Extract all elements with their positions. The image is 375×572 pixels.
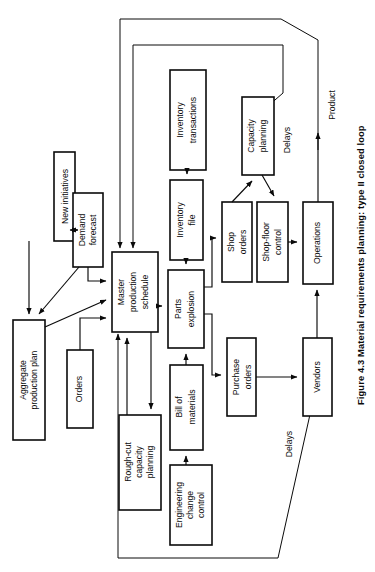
shop-orders-label-line2: orders <box>238 230 248 254</box>
inventory-transactions-label-line1: Inventory <box>175 102 185 138</box>
engineering-change-control-label-line2: change <box>185 491 195 519</box>
operations-label: Operations <box>312 222 322 264</box>
rough-cut-capacity-label-line2: capacity <box>134 446 144 478</box>
mrp-flowchart-canvas: New initiatives Demand forecast Aggregat… <box>0 0 375 572</box>
node-orders[interactable]: Orders <box>67 350 93 428</box>
node-rough-cut-capacity-planning[interactable]: Rough-cut capacity planning <box>119 415 161 510</box>
shop-orders-label-line1: Shop <box>226 232 236 252</box>
edge-demand-forecast-to-master <box>88 267 106 281</box>
capacity-planning-label-line2: planning <box>258 120 268 153</box>
rough-cut-capacity-label-line1: Rough-cut <box>123 442 133 482</box>
shop-floor-control-label-line1: Shop-floor <box>261 222 271 262</box>
purchase-orders-label-line1: Purchase <box>231 359 241 396</box>
bill-of-materials-label-line1: Bill of <box>174 396 184 418</box>
edge-parts-to-purchase-orders <box>204 314 221 375</box>
parts-explosion-label-line2: explosion <box>186 291 196 328</box>
bill-of-materials-label-line2: materials <box>187 390 197 425</box>
new-initiatives-label: New initiatives <box>60 169 70 224</box>
edge-demand-forecast-to-aggregate <box>39 267 79 314</box>
node-vendors[interactable]: Vendors <box>303 338 332 416</box>
master-production-schedule-label-line1: Master <box>116 279 126 305</box>
delays-lower-label: Delays <box>284 431 294 457</box>
figure-root: New initiatives Demand forecast Aggregat… <box>0 0 375 572</box>
node-operations[interactable]: Operations <box>303 202 333 284</box>
demand-forecast-label-line1: Demand <box>77 214 87 247</box>
engineering-change-control-label-line3: control <box>196 492 206 518</box>
edge-shop-orders-to-capacity <box>232 181 252 202</box>
aggregate-production-plan-label-line2: production plan <box>29 350 39 409</box>
node-new-initiatives[interactable]: New initiatives <box>54 152 75 241</box>
demand-forecast-label-line2: forecast <box>88 214 98 245</box>
aggregate-production-plan-label-line1: Aggregate <box>18 360 28 400</box>
node-capacity-planning[interactable]: Capacity planning <box>242 97 274 175</box>
product-label: Product <box>327 90 337 120</box>
shop-floor-control-label-line2: control <box>273 229 283 255</box>
master-production-schedule-label-line2: production <box>128 272 138 312</box>
inventory-file-label-line1: Inventory <box>175 202 185 238</box>
orders-label: Orders <box>74 376 84 402</box>
rough-cut-capacity-label-line3: planning <box>145 446 155 479</box>
node-master-production-schedule[interactable]: Master production schedule <box>112 252 158 332</box>
purchase-orders-label-line2: orders <box>243 365 253 389</box>
capacity-planning-label-line1: Capacity <box>246 119 256 153</box>
node-engineering-change-control[interactable]: Engineering change control <box>170 465 212 545</box>
edge-orders-to-master <box>80 318 106 350</box>
node-inventory-transactions[interactable]: Inventory transactions <box>170 70 206 170</box>
node-parts-explosion[interactable]: Parts explosion <box>168 270 204 348</box>
engineering-change-control-label-line1: Engineering <box>174 482 184 528</box>
node-bill-of-materials[interactable]: Bill of materials <box>170 365 203 450</box>
node-shop-floor-control[interactable]: Shop-floor control <box>257 202 288 282</box>
node-shop-orders[interactable]: Shop orders <box>222 202 252 282</box>
vendors-label: Vendors <box>312 361 322 393</box>
master-production-schedule-label-line3: schedule <box>140 275 150 310</box>
delays-upper-label: Delays <box>282 127 292 153</box>
node-inventory-file[interactable]: Inventory file <box>170 180 203 260</box>
inventory-transactions-label-line2: transactions <box>188 97 198 143</box>
node-purchase-orders[interactable]: Purchase orders <box>227 338 256 416</box>
parts-explosion-label-line1: Parts <box>173 299 183 319</box>
inventory-file-label-line2: file <box>187 214 197 225</box>
edge-parts-to-shop-orders <box>204 238 216 287</box>
edge-capacity-to-shop-floor <box>262 175 274 196</box>
edge-aggregate-to-master <box>45 300 106 327</box>
node-aggregate-production-plan[interactable]: Aggregate production plan <box>13 320 45 440</box>
figure-caption: Figure 4.3 Material requirements plannin… <box>355 125 366 405</box>
